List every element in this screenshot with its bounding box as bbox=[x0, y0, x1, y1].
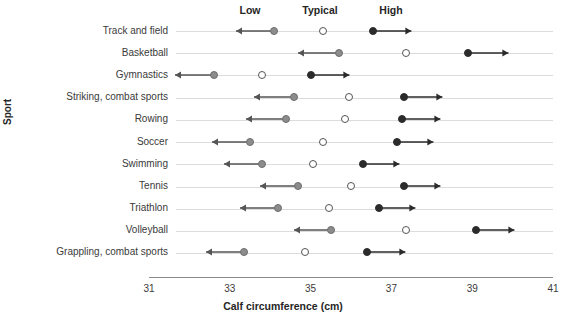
row-baseline bbox=[176, 98, 553, 99]
low-marker bbox=[335, 49, 343, 57]
typical-marker bbox=[345, 93, 353, 101]
low-marker bbox=[327, 226, 335, 234]
typical-marker bbox=[341, 115, 349, 123]
row-baseline bbox=[176, 120, 553, 121]
x-tick-label: 41 bbox=[547, 283, 558, 294]
x-tick-label: 33 bbox=[224, 283, 235, 294]
low-marker bbox=[258, 160, 266, 168]
calf-circumference-chart: Low Typical High Sport Track and fieldBa… bbox=[0, 0, 566, 325]
high-marker bbox=[307, 71, 315, 79]
legend-label-typical: Typical bbox=[302, 4, 337, 16]
category-label: Rowing bbox=[135, 113, 168, 124]
high-marker bbox=[400, 182, 408, 190]
category-label: Basketball bbox=[122, 47, 168, 58]
category-label: Grappling, combat sports bbox=[56, 246, 168, 257]
typical-marker bbox=[319, 138, 327, 146]
typical-marker bbox=[309, 160, 317, 168]
category-label: Tennis bbox=[139, 180, 168, 191]
typical-marker bbox=[402, 226, 410, 234]
category-label: Track and field bbox=[103, 25, 168, 36]
high-marker bbox=[398, 115, 406, 123]
x-tick-label: 31 bbox=[143, 283, 154, 294]
row-baseline bbox=[176, 209, 553, 210]
row-baseline bbox=[176, 187, 553, 188]
category-label: Triathlon bbox=[129, 202, 168, 213]
category-label: Gymnastics bbox=[116, 69, 168, 80]
x-axis-title: Calf circumference (cm) bbox=[0, 300, 566, 312]
low-marker bbox=[240, 248, 248, 256]
low-marker bbox=[246, 138, 254, 146]
typical-marker bbox=[319, 27, 327, 35]
category-label: Striking, combat sports bbox=[66, 91, 168, 102]
legend-label-low: Low bbox=[240, 4, 261, 16]
category-label: Soccer bbox=[137, 136, 168, 147]
typical-marker bbox=[347, 182, 355, 190]
typical-marker bbox=[258, 71, 266, 79]
x-axis-line bbox=[149, 277, 553, 278]
x-tick-label: 39 bbox=[467, 283, 478, 294]
row-baseline bbox=[176, 75, 553, 76]
x-tick-label: 35 bbox=[305, 283, 316, 294]
category-label: Volleyball bbox=[126, 224, 168, 235]
legend-label-high: High bbox=[379, 4, 402, 16]
high-marker bbox=[359, 160, 367, 168]
category-label: Swimming bbox=[122, 158, 168, 169]
high-marker bbox=[393, 138, 401, 146]
y-axis-title: Sport bbox=[2, 99, 13, 125]
high-marker bbox=[400, 93, 408, 101]
x-tick-label: 37 bbox=[386, 283, 397, 294]
typical-marker bbox=[301, 248, 309, 256]
low-marker bbox=[210, 71, 218, 79]
typical-marker bbox=[325, 204, 333, 212]
typical-marker bbox=[402, 49, 410, 57]
